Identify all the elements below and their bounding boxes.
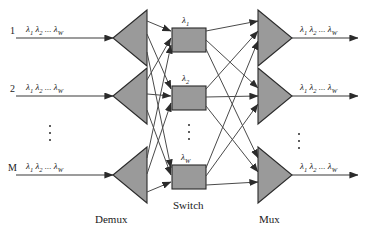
ellipsis-inline: ... xyxy=(45,161,52,171)
input-lines xyxy=(16,38,113,175)
lambda-sub-w: W xyxy=(58,166,63,173)
dot xyxy=(298,133,300,135)
lambda-sub-2: 2 xyxy=(39,29,42,36)
input-wavelengths-2: λ1 λ2 ... λW xyxy=(26,83,63,94)
dot xyxy=(188,138,190,140)
input-wavelengths-3: λ1 λ2 ... λW xyxy=(26,162,63,173)
demux-triangles xyxy=(113,10,147,203)
input-vertical-ellipsis xyxy=(48,125,52,141)
lambda-sub-2: 2 xyxy=(39,166,42,173)
lambda-sub-w: W xyxy=(332,29,337,36)
output-lines xyxy=(292,38,358,175)
lambda-sub-2: 2 xyxy=(313,87,316,94)
dot xyxy=(298,140,300,142)
lambda-sub-w: W xyxy=(58,87,63,94)
switch-block-label-3: λW xyxy=(181,153,190,164)
switch-to-mux-links xyxy=(206,21,258,185)
input-wavelengths-1: λ1 λ2 ... λW xyxy=(26,25,63,36)
dot xyxy=(298,147,300,149)
mux-triangle-1 xyxy=(258,10,292,66)
lambda-sub-1: 1 xyxy=(304,166,307,173)
dot xyxy=(49,125,51,127)
lambda-sub-1: 1 xyxy=(30,87,33,94)
mux-triangles xyxy=(258,10,292,203)
output-vertical-ellipsis xyxy=(297,133,301,149)
dot xyxy=(49,132,51,134)
demux-triangle-3 xyxy=(113,147,147,203)
mux-stage-label: Mux xyxy=(259,214,280,225)
lambda-sub-w: W xyxy=(332,166,337,173)
figure-canvas: 1 2 M λ1 λ2 ... λW λ1 λ2 ... λW λ1 λ2 ..… xyxy=(0,0,369,237)
lambda-sub-2: 2 xyxy=(39,87,42,94)
lambda-sub-1: 1 xyxy=(186,20,189,27)
switch-vertical-ellipsis xyxy=(187,124,191,140)
output-wavelengths-2: λ1 λ2 ... λW xyxy=(300,83,337,94)
lambda-sub-w: W xyxy=(332,87,337,94)
switch-block-label-2: λ2 xyxy=(182,74,189,85)
demux-triangle-2 xyxy=(113,68,147,124)
ellipsis-inline: ... xyxy=(319,161,326,171)
lambda-sub-2: 2 xyxy=(186,78,189,85)
dot xyxy=(49,139,51,141)
demux-to-switch-links xyxy=(147,21,171,192)
demux-triangle-1 xyxy=(113,10,147,66)
switch-blocks xyxy=(172,28,206,189)
lambda-sub-w: W xyxy=(185,157,190,164)
ellipsis-inline: ... xyxy=(45,82,52,92)
demux-stage-label: Demux xyxy=(95,214,127,225)
ellipsis-inline: ... xyxy=(319,24,326,34)
output-wavelengths-1: λ1 λ2 ... λW xyxy=(300,25,337,36)
switch-block-2 xyxy=(172,86,206,110)
lambda-sub-w: W xyxy=(58,29,63,36)
mux-triangle-2 xyxy=(258,68,292,124)
ellipsis-inline: ... xyxy=(45,24,52,34)
lambda-sub-1: 1 xyxy=(304,29,307,36)
input-index-1: 1 xyxy=(10,26,15,36)
output-wavelengths-3: λ1 λ2 ... λW xyxy=(300,162,337,173)
ellipsis-inline: ... xyxy=(319,82,326,92)
input-index-2: 2 xyxy=(10,84,15,94)
lambda-sub-1: 1 xyxy=(304,87,307,94)
switch-block-1 xyxy=(172,28,206,52)
lambda-sub-2: 2 xyxy=(313,29,316,36)
lambda-sub-2: 2 xyxy=(313,166,316,173)
switch-block-label-1: λ1 xyxy=(182,16,189,27)
lambda-sub-1: 1 xyxy=(30,29,33,36)
dot xyxy=(188,124,190,126)
mux-triangle-3 xyxy=(258,147,292,203)
lambda-sub-1: 1 xyxy=(30,166,33,173)
dot xyxy=(188,131,190,133)
switch-stage-label: Switch xyxy=(173,200,204,211)
switch-block-3 xyxy=(172,165,206,189)
input-index-3: M xyxy=(8,163,17,173)
